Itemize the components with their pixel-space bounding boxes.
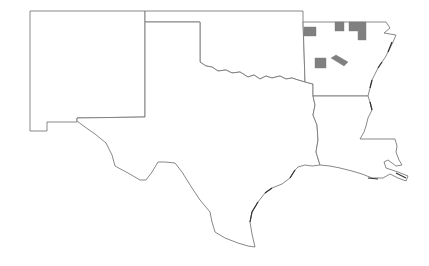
state-new-mexico[interactable] [30, 11, 145, 131]
county-boone[interactable] [335, 22, 344, 31]
county-benton[interactable] [304, 27, 316, 36]
state-louisiana[interactable] [313, 96, 408, 181]
region-map [0, 0, 429, 266]
county-sebastian[interactable] [315, 58, 326, 68]
